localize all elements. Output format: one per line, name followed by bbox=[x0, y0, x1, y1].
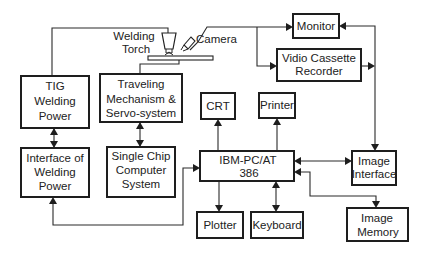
welding-torch-label: WeldingTorch bbox=[113, 30, 154, 55]
arrow-keyboard-to-ibm bbox=[272, 181, 280, 188]
diagram-canvas: WeldingTorch Camera TIGWeldingPower Trav… bbox=[0, 0, 428, 256]
traveling-mechanism-box: TravelingMechanism &Servo-system bbox=[100, 74, 182, 122]
arrow-ibm-from-imageinterface bbox=[294, 157, 301, 165]
arrow-into-keyboard bbox=[272, 205, 280, 212]
image-memory-box: ImageMemory bbox=[347, 208, 408, 241]
workpiece-plate bbox=[148, 56, 213, 60]
arrow-into-vcr bbox=[270, 62, 277, 70]
tig-welding-power-box: TIGWeldingPower bbox=[21, 76, 89, 128]
arrow-into-monitor bbox=[286, 23, 293, 31]
camera-icon bbox=[181, 37, 195, 51]
svg-text:Keyboard: Keyboard bbox=[252, 219, 301, 231]
camera-to-vcr-line bbox=[257, 27, 272, 66]
interface-welding-power-box: Interface ofWeldingPower bbox=[21, 148, 89, 197]
svg-text:Monitor: Monitor bbox=[297, 20, 336, 32]
vcr-box: Vidio CassetteRecorder bbox=[277, 49, 361, 81]
arrow-monitor-from-right bbox=[339, 22, 346, 30]
arrow-into-image-interface bbox=[371, 144, 379, 151]
svg-text:CRT: CRT bbox=[206, 100, 229, 112]
keyboard-box: Keyboard bbox=[251, 212, 303, 238]
monitor-box: Monitor bbox=[293, 14, 339, 38]
ibm-pc-box: IBM-PC/AT386 bbox=[200, 151, 294, 181]
plotter-box: Plotter bbox=[197, 212, 243, 238]
arrow-tig-down bbox=[50, 141, 58, 148]
right-bus-line bbox=[344, 26, 375, 146]
arrow-into-ibm-left bbox=[193, 164, 200, 172]
arrow-into-image-interface-left bbox=[345, 157, 352, 165]
arrow-into-printer bbox=[273, 118, 281, 125]
svg-text:Plotter: Plotter bbox=[203, 219, 236, 231]
single-chip-computer-box: Single ChipComputerSystem bbox=[107, 147, 175, 197]
crt-box: CRT bbox=[201, 93, 235, 119]
arrow-into-plotter bbox=[215, 205, 223, 212]
traveling-to-plate-line bbox=[140, 60, 179, 74]
system-block-diagram: WeldingTorch Camera TIGWeldingPower Trav… bbox=[0, 0, 428, 256]
image-interface-box: ImageInterface bbox=[352, 151, 397, 185]
svg-text:Printer: Printer bbox=[260, 99, 294, 111]
arrow-tig-up bbox=[50, 128, 58, 135]
camera-label: Camera bbox=[196, 33, 238, 45]
arrow-ibm-from-imagememory bbox=[294, 168, 301, 176]
arrow-into-interface-bottom bbox=[49, 197, 57, 204]
arrow-vcr-to-bus bbox=[368, 62, 375, 70]
printer-box: Printer bbox=[259, 93, 295, 118]
arrow-into-crt bbox=[214, 119, 222, 126]
arrow-singlechip-down bbox=[136, 140, 144, 147]
svg-text:ImageInterface: ImageInterface bbox=[352, 155, 397, 180]
welding-torch-icon bbox=[162, 33, 176, 55]
arrow-traveling-up bbox=[136, 122, 144, 129]
arrow-into-image-memory bbox=[372, 201, 380, 208]
